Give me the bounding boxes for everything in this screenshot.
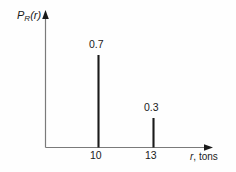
x-tick-label-10: 10 [90, 150, 102, 161]
stem-value-label-10: 0.7 [89, 39, 104, 50]
chart-figure: PR(r) r, tons 10 13 0.7 0.3 [0, 0, 236, 172]
stem-value-label-13: 0.3 [144, 102, 159, 113]
x-axis-arrowhead [204, 144, 213, 151]
y-axis-arrowhead [42, 10, 49, 19]
x-axis-label: r, tons [190, 152, 218, 162]
y-axis-label: PR(r) [17, 10, 41, 23]
plot-canvas [0, 0, 236, 172]
x-axis-label-units: , tons [193, 151, 217, 162]
x-tick-label-13: 13 [145, 150, 157, 161]
y-axis-label-argument: (r) [30, 9, 41, 21]
